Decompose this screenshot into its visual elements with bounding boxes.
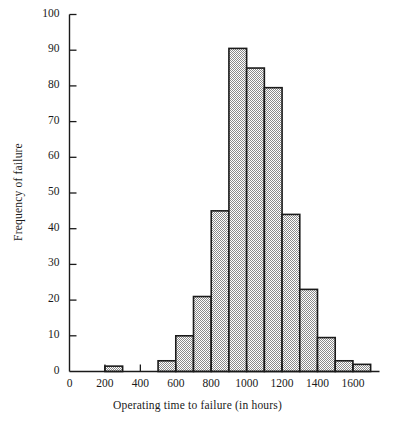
histogram-figure: Frequency of failure Operating time to f…: [0, 0, 395, 426]
histogram-bar: [176, 336, 194, 372]
histogram-bar: [247, 68, 265, 371]
histogram-bar: [300, 289, 318, 371]
y-axis-tick-label: 20: [26, 292, 60, 304]
x-axis-tick-label: 800: [191, 377, 231, 389]
y-axis-tick-label: 10: [26, 328, 60, 340]
histogram-bar: [229, 48, 247, 371]
x-axis-title: Operating time to failure (in hours): [0, 399, 395, 411]
y-axis-tick-label: 80: [26, 78, 60, 90]
histogram-bars: [105, 48, 371, 371]
histogram-bar: [264, 88, 282, 372]
y-axis-tick-label: 40: [26, 221, 60, 233]
plot-area: [0, 0, 395, 426]
histogram-bar: [318, 338, 336, 372]
x-axis-tick-label: 1000: [227, 377, 267, 389]
y-axis-tick-label: 70: [26, 114, 60, 126]
y-axis-tick-label: 100: [26, 7, 60, 19]
histogram-bar: [211, 211, 229, 372]
histogram-bar: [335, 361, 353, 372]
histogram-bar: [158, 361, 176, 372]
y-axis-tick-label: 50: [26, 185, 60, 197]
histogram-bar: [353, 364, 371, 371]
histogram-bar: [194, 297, 212, 372]
histogram-bar: [282, 214, 300, 371]
y-axis-tick-label: 30: [26, 256, 60, 268]
x-axis-tick-label: 0: [50, 377, 90, 389]
x-axis-tick-label: 1600: [333, 377, 373, 389]
y-axis-title: Frequency of failure: [12, 112, 24, 272]
y-axis-tick-label: 0: [26, 364, 60, 376]
x-axis-tick-label: 600: [156, 377, 196, 389]
histogram-bar: [105, 366, 123, 371]
x-axis-tick-label: 200: [85, 377, 125, 389]
x-axis-tick-label: 1400: [298, 377, 338, 389]
y-axis-tick-label: 60: [26, 149, 60, 161]
x-axis-tick-label: 400: [120, 377, 160, 389]
y-axis-tick-label: 90: [26, 42, 60, 54]
x-axis-tick-label: 1200: [262, 377, 302, 389]
